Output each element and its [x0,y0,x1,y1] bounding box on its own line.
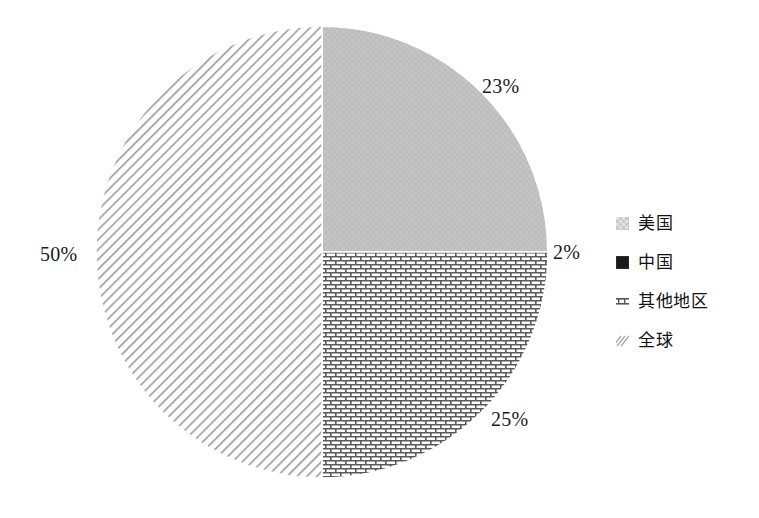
legend-item-global[interactable]: 全球 [616,321,756,360]
pie-slice-global [96,26,322,478]
legend-label-other: 其他地区 [638,293,708,310]
legend-label-global: 全球 [638,332,673,349]
pie-value-label-cn: 2% [553,242,580,262]
legend-item-cn[interactable]: 中国 [616,243,756,282]
pie-value-label-global: 50% [40,244,77,264]
pie-slice-us [322,26,548,280]
pie-chart-page: 23% 2% 25% 50% 美国 中国 [0,0,759,518]
pie-slice-other [322,252,548,478]
chart-legend: 美国 中国 其他地区 [616,204,756,360]
diagonal-lines-swatch-icon [616,334,629,347]
horizontal-lines-swatch-icon [616,295,629,308]
legend-label-cn: 中国 [638,254,673,271]
solid-black-swatch-icon [616,256,629,269]
pie-value-label-us: 23% [482,76,519,96]
legend-item-us[interactable]: 美国 [616,204,756,243]
legend-label-us: 美国 [638,215,673,232]
dotted-light-gray-swatch-icon [616,217,629,230]
legend-item-other[interactable]: 其他地区 [616,282,756,321]
pie-value-label-other: 25% [491,409,528,429]
